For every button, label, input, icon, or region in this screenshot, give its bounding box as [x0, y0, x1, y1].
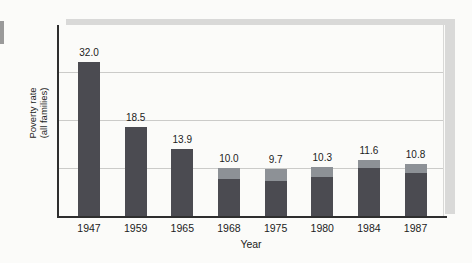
top-shadow-band: [66, 19, 455, 25]
bar: [125, 127, 147, 216]
gridline: [59, 72, 443, 73]
plot-right-edge: [443, 25, 444, 216]
bar: [358, 160, 380, 216]
x-tick-label: 1987: [394, 222, 438, 234]
bar-cap: [218, 168, 240, 179]
bar-cap: [311, 167, 333, 177]
y-axis-title-line1: Poverty rate: [27, 58, 38, 168]
bar-value-label: 9.7: [254, 154, 298, 166]
bar-value-label: 32.0: [67, 47, 111, 59]
x-tick-label: 1968: [207, 222, 251, 234]
x-tick-label: 1975: [254, 222, 298, 234]
bar: [171, 149, 193, 216]
y-axis-line: [57, 25, 59, 218]
bar-value-label: 13.9: [160, 134, 204, 146]
bar: [265, 169, 287, 216]
bar-value-label: 18.5: [114, 112, 158, 124]
bar-cap: [405, 164, 427, 173]
bar-cap: [265, 169, 287, 181]
bar: [405, 164, 427, 216]
x-axis-title: Year: [58, 238, 444, 250]
gridline: [59, 168, 443, 169]
left-edge-fragment: [0, 21, 4, 44]
y-axis-title: Poverty rate (all families): [27, 58, 49, 168]
x-tick-label: 1947: [67, 222, 111, 234]
x-tick-label: 1984: [347, 222, 391, 234]
y-axis-title-line2: (all families): [38, 58, 49, 168]
poverty-rate-bar-chart: 32.018.513.910.09.710.311.610.8 19471959…: [0, 0, 472, 263]
x-axis-line: [57, 216, 447, 218]
bar: [78, 62, 100, 216]
right-shadow-band: [445, 19, 455, 214]
x-tick-label: 1965: [160, 222, 204, 234]
bar-value-label: 10.3: [300, 152, 344, 164]
bar-value-label: 10.8: [394, 149, 438, 161]
bar: [311, 167, 333, 216]
x-tick-label: 1980: [300, 222, 344, 234]
bar-cap: [358, 160, 380, 168]
bar-value-label: 11.6: [347, 145, 391, 157]
bar: [218, 168, 240, 216]
x-tick-label: 1959: [114, 222, 158, 234]
bar-value-label: 10.0: [207, 153, 251, 165]
